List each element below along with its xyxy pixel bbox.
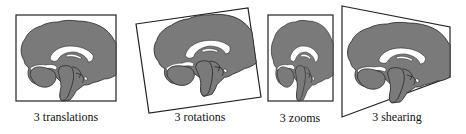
panel-rotations	[136, 8, 261, 113]
panel-translations	[16, 15, 116, 101]
label-translations: 3 translations	[34, 110, 98, 124]
panel-shearing	[342, 6, 450, 117]
panel-zooms	[268, 15, 333, 101]
label-rotations: 3 rotations	[175, 110, 226, 124]
brain-image-rotations	[150, 9, 260, 103]
brain-image-shearing	[348, 22, 450, 103]
label-shearing: 3 shearing	[372, 110, 422, 124]
brain-image-zooms	[271, 20, 333, 101]
label-zooms: 3 zooms	[280, 111, 320, 125]
brain-image-translations	[21, 20, 116, 101]
